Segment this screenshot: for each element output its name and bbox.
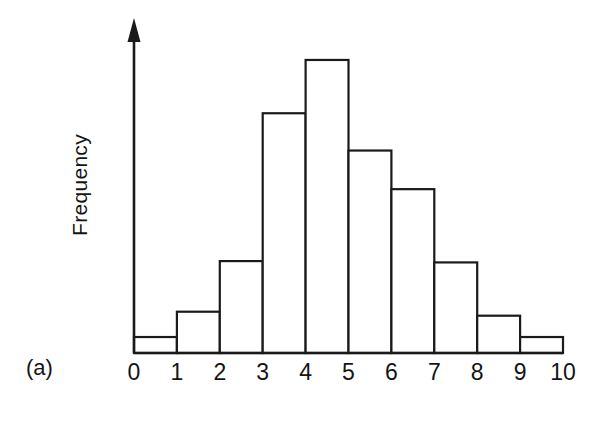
x-tick-label: 5 — [342, 361, 355, 384]
panel-label: (a) — [26, 357, 53, 379]
x-tick-label: 3 — [256, 361, 269, 384]
x-tick-label: 1 — [170, 361, 183, 384]
histogram-bar — [520, 337, 563, 353]
x-tick-label: 2 — [213, 361, 226, 384]
x-tick-label: 10 — [550, 361, 576, 384]
bars-group — [134, 60, 563, 353]
x-tick-label: 0 — [128, 361, 141, 384]
histogram-bar — [391, 189, 434, 353]
histogram-figure: 012345678910 Frequency (a) — [0, 0, 609, 433]
y-axis-arrow-icon — [128, 18, 141, 42]
histogram-bar — [477, 316, 520, 353]
x-tick-label: 9 — [514, 361, 527, 384]
histogram-bar — [134, 337, 177, 353]
histogram-bar — [220, 261, 263, 353]
histogram-bar — [177, 312, 220, 353]
histogram-bar — [263, 113, 306, 353]
x-tick-label: 6 — [385, 361, 398, 384]
histogram-bar — [349, 151, 392, 353]
x-tick-label: 8 — [471, 361, 484, 384]
y-axis-label: Frequency — [68, 134, 92, 236]
histogram-bar — [434, 262, 477, 353]
histogram-bar — [306, 60, 349, 353]
x-tick-label: 4 — [299, 361, 312, 384]
x-tick-label: 7 — [428, 361, 441, 384]
